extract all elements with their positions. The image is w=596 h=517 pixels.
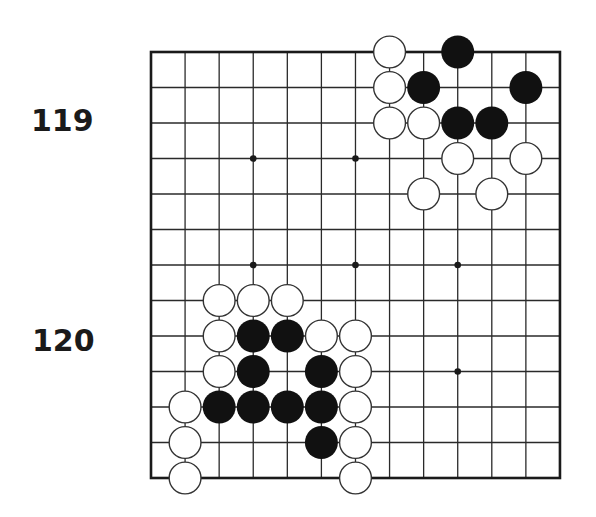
white-stone-icon [476, 178, 508, 210]
black-stone-icon [407, 71, 440, 104]
star-point-icon [454, 368, 461, 375]
black-stone-icon [509, 71, 542, 104]
white-stone-icon [408, 107, 440, 139]
white-stone-icon [340, 356, 372, 388]
white-stone-icon [340, 391, 372, 423]
white-stone-icon [271, 285, 303, 317]
white-stone-icon [169, 391, 201, 423]
star-point-icon [250, 262, 257, 269]
black-stone-icon [271, 391, 304, 424]
white-stone-icon [340, 320, 372, 352]
black-stone-icon [441, 107, 474, 140]
white-stone-icon [306, 320, 338, 352]
star-point-icon [454, 262, 461, 269]
black-stone-icon [237, 391, 270, 424]
white-stone-icon [510, 143, 542, 175]
white-stone-icon [203, 356, 235, 388]
black-stone-icon [203, 391, 236, 424]
black-stone-icon [237, 320, 270, 353]
go-board-diagram [0, 0, 596, 517]
star-point-icon [250, 155, 257, 162]
white-stone-icon [237, 285, 269, 317]
white-stone-icon [203, 320, 235, 352]
white-stone-icon [374, 107, 406, 139]
white-stone-icon [374, 72, 406, 104]
black-stone-icon [305, 426, 338, 459]
white-stone-icon [408, 178, 440, 210]
white-stone-icon [340, 462, 372, 494]
white-stone-icon [340, 427, 372, 459]
star-point-icon [352, 155, 359, 162]
black-stone-icon [271, 320, 304, 353]
black-stone-icon [305, 391, 338, 424]
black-stone-icon [475, 107, 508, 140]
black-stone-icon [441, 36, 474, 69]
black-stone-icon [237, 355, 270, 388]
star-point-icon [352, 262, 359, 269]
white-stone-icon [374, 36, 406, 68]
white-stone-icon [169, 427, 201, 459]
white-stone-icon [442, 143, 474, 175]
white-stone-icon [169, 462, 201, 494]
black-stone-icon [305, 355, 338, 388]
white-stone-icon [203, 285, 235, 317]
